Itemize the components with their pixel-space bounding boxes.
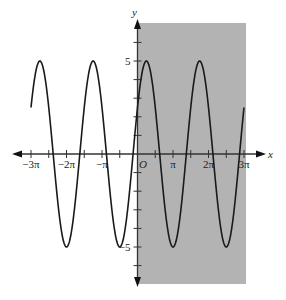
x-tick-label: −2π (58, 158, 76, 170)
y-tick-label: 5 (125, 55, 131, 67)
x-tick-label: π (170, 158, 176, 170)
sinusoid-chart: −3π−2π−ππ2π3π 5−5 x y O (0, 0, 286, 300)
y-axis-label: y (131, 6, 137, 18)
origin-label: O (139, 158, 147, 170)
x-tick-label: −3π (22, 158, 40, 170)
x-axis-label: x (267, 148, 273, 160)
x-tick-label: 3π (238, 158, 250, 170)
